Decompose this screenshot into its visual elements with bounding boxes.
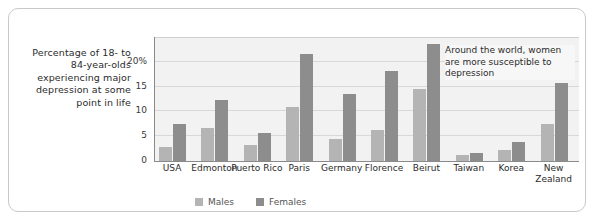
legend-label-females: Females — [269, 197, 306, 207]
legend-item-males: Males — [195, 197, 234, 207]
y-tick-label: 5 — [119, 130, 147, 140]
bar-group: Florence — [367, 37, 409, 161]
bar-males — [371, 130, 384, 161]
x-tick-label: New Zealand — [526, 163, 582, 184]
bar-group: Germany — [325, 37, 367, 161]
bar-group: USA — [155, 37, 197, 161]
bar-females — [385, 71, 398, 161]
chart-caption: Percentage of 18- to 84-year-olds experi… — [23, 47, 131, 109]
bar-females — [555, 83, 568, 161]
bar-group: Edmonton — [197, 37, 239, 161]
bar-males — [498, 150, 511, 161]
y-tick-label: 10 — [119, 105, 147, 115]
bar-males — [201, 128, 214, 161]
bar-females — [258, 133, 271, 161]
chart-annotation: Around the world, women are more suscept… — [445, 45, 575, 80]
bar-females — [427, 44, 440, 161]
chart-legend: Males Females — [195, 197, 306, 207]
bar-females — [343, 94, 356, 161]
bar-females — [300, 54, 313, 161]
bar-males — [329, 139, 342, 161]
legend-swatch-females — [256, 198, 264, 206]
bar-males — [456, 155, 469, 161]
bar-group: Puerto Rico — [240, 37, 282, 161]
y-tick-label: 0 — [119, 155, 147, 165]
y-tick-label: 20% — [119, 56, 147, 66]
x-axis-line — [154, 161, 579, 162]
bar-females — [215, 100, 228, 162]
legend-swatch-males — [195, 198, 203, 206]
bar-males — [159, 147, 172, 161]
bar-males — [244, 145, 257, 161]
bar-females — [470, 153, 483, 161]
bar-males — [413, 89, 426, 161]
bar-females — [512, 142, 525, 161]
bar-females — [173, 124, 186, 161]
bar-group: Paris — [282, 37, 324, 161]
legend-item-females: Females — [256, 197, 306, 207]
bar-males — [541, 124, 554, 161]
chart-card: Percentage of 18- to 84-year-olds experi… — [8, 8, 586, 212]
legend-label-males: Males — [208, 197, 234, 207]
bar-males — [286, 107, 299, 161]
y-tick-label: 15 — [119, 81, 147, 91]
